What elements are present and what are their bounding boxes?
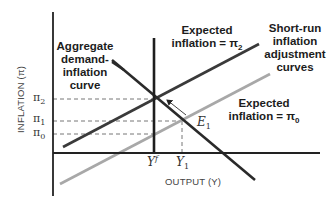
x-axis-title: OUTPUT (Y) xyxy=(165,176,221,187)
expected-inflation-pi0-label: Expected inflation = π0 xyxy=(224,97,304,127)
expected-inflation-pi2-label: Expected inflation = π2 xyxy=(168,24,246,54)
sria-curves-label: Short-run inflation adjustment curves xyxy=(260,22,330,74)
y-tick-pi1: π1 xyxy=(33,112,45,127)
y-tick-pi0: π0 xyxy=(33,126,45,141)
x-tick-yf: Yf xyxy=(147,154,158,169)
y-axis-title: INFLATION (π) xyxy=(15,66,26,133)
point-e1-label: E1 xyxy=(197,115,211,131)
x-tick-y1: Y1 xyxy=(176,155,189,171)
y-tick-pi2: π2 xyxy=(33,91,45,106)
ad-curve-label: Aggregate demand- inflation curve xyxy=(55,40,115,92)
